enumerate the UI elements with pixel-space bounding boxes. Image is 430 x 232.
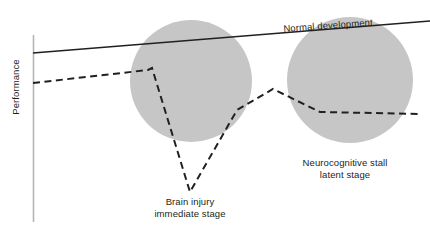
- performance-trajectory-figure: Performance Normal development Brain inj…: [0, 0, 430, 232]
- neurocognitive-stall-label-line-2: latent stage: [285, 169, 405, 181]
- shaded-region-neurocognitive-stall: [287, 17, 413, 143]
- shaded-region-brain-injury: [130, 20, 252, 142]
- brain-injury-label-line-2: immediate stage: [130, 208, 250, 220]
- brain-injury-label-line-1: Brain injury: [130, 196, 250, 208]
- neurocognitive-stall-label-line-1: Neurocognitive stall: [285, 157, 405, 169]
- neurocognitive-stall-label: Neurocognitive stall latent stage: [285, 157, 405, 180]
- brain-injury-label: Brain injury immediate stage: [130, 196, 250, 219]
- y-axis-label: Performance: [10, 32, 22, 142]
